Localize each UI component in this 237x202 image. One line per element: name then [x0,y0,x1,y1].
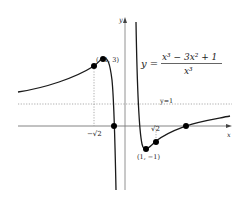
max-point-label: (−1, 3) [96,56,119,64]
curve-left-branch [18,58,116,190]
pos-inflection-label: √2 [151,125,160,133]
x-axis-label: x [227,131,231,139]
neg-inflection-label: −√2 [87,130,102,138]
x-axis-arrow-icon [226,124,232,128]
function-graph: (−1, 3) −√2 √2 (1, −1) y=1 x y y = x³ − … [0,0,237,202]
equation-numerator: x³ − 3x² + 1 [162,52,217,62]
y-axis-arrow-icon [123,17,127,23]
equation-lhs: y = [140,58,158,69]
inflection-point-right [153,139,159,145]
zero-point-right [183,123,189,129]
min-point-label: (1, −1) [137,153,160,161]
local-min-point [143,146,149,152]
equation-denominator: x³ [184,66,193,76]
zero-point-left [111,123,117,129]
asymptote-label: y=1 [159,97,173,105]
y-axis-label: y [118,16,123,24]
